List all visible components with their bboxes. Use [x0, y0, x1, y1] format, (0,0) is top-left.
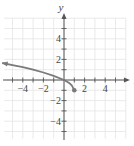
endpoint-dot [72, 88, 77, 93]
x-tick-label: −4 [17, 83, 28, 94]
x-tick-label: 4 [103, 83, 108, 94]
y-tick-label: 2 [56, 54, 61, 65]
chart: −4−22442−2−4xy [0, 0, 134, 146]
x-axis-label: x [133, 74, 134, 86]
x-axis-arrow-icon [124, 78, 130, 83]
x-tick-label: −2 [38, 83, 49, 94]
y-tick-label: 4 [56, 33, 61, 44]
tick-labels: −4−22442−2−4xy [17, 1, 134, 127]
y-axis-label: y [58, 1, 64, 13]
y-tick-label: −4 [50, 116, 61, 127]
y-tick-label: −2 [50, 95, 61, 106]
x-tick-label: 2 [82, 83, 87, 94]
y-axis-arrow-icon [62, 13, 67, 19]
